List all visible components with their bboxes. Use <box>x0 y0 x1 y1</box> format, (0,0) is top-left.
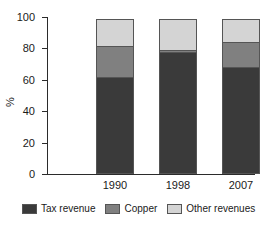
legend-label: Other revenues <box>186 203 255 214</box>
legend-item[interactable]: Copper <box>105 203 157 214</box>
stacked-bar <box>96 19 134 174</box>
y-axis-tick-label: 20 <box>23 137 35 149</box>
y-axis-tick-label: 60 <box>23 74 35 86</box>
y-axis-tick: 0 <box>42 174 47 175</box>
bar-segment <box>96 19 134 47</box>
stacked-bar <box>222 19 260 174</box>
bar-segment <box>222 19 260 43</box>
stacked-bar-chart: % 100806040200 199019982007 Tax revenueC… <box>0 0 274 227</box>
legend-label: Copper <box>124 203 157 214</box>
y-axis-tick: 60 <box>42 80 47 81</box>
legend-swatch <box>105 204 120 214</box>
legend-item[interactable]: Other revenues <box>167 203 255 214</box>
y-axis-tick: 20 <box>42 143 47 144</box>
bar-segment <box>159 19 197 51</box>
bar-segment <box>96 77 134 174</box>
x-axis-tick-label: 2007 <box>211 179 271 191</box>
y-axis-line <box>47 17 48 175</box>
y-axis-tick: 40 <box>42 111 47 112</box>
x-axis-line <box>47 174 255 175</box>
legend-item[interactable]: Tax revenue <box>22 203 95 214</box>
y-axis-label: % <box>4 94 16 110</box>
y-axis-tick-label: 80 <box>23 42 35 54</box>
x-axis-tick-label: 1998 <box>148 179 208 191</box>
x-axis-tick-label: 1990 <box>85 179 145 191</box>
y-axis-tick-label: 40 <box>23 105 35 117</box>
y-axis-tick: 100 <box>42 17 47 18</box>
stacked-bar <box>159 19 197 174</box>
legend-swatch <box>22 204 37 214</box>
legend-swatch <box>167 204 182 214</box>
bar-segment <box>222 67 260 174</box>
bar-segment <box>96 46 134 77</box>
y-axis-tick: 80 <box>42 48 47 49</box>
y-axis-tick-label: 100 <box>17 11 35 23</box>
plot-area: 100806040200 199019982007 <box>47 17 255 175</box>
legend-label: Tax revenue <box>41 203 95 214</box>
bar-segment <box>222 42 260 69</box>
y-axis-tick-label: 0 <box>29 168 35 180</box>
chart-legend: Tax revenueCopperOther revenues <box>22 203 260 214</box>
bar-segment <box>159 52 197 174</box>
